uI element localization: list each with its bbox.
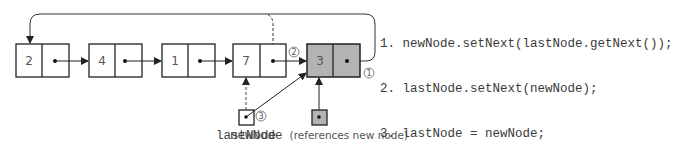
svg-text:1: 1: [366, 69, 371, 78]
lastnode-new-pointer: [246, 73, 306, 117]
pointer-dot: [345, 59, 349, 63]
code-line-3: 3. lastNode = newNode;: [380, 127, 673, 142]
node-value: 4: [98, 54, 106, 68]
step-marker-1: 1: [364, 68, 374, 78]
code-listing: 1. newNode.setNext(lastNode.getNext()); …: [380, 7, 673, 157]
node-value: 2: [25, 54, 33, 68]
list-node-new: 3: [307, 44, 360, 77]
svg-text:3: 3: [258, 112, 263, 121]
code-line-2: 2. lastNode.setNext(newNode);: [380, 82, 673, 97]
code-line-1: 1. newNode.setNext(lastNode.getNext());: [380, 37, 673, 52]
step-marker-3: 3: [256, 111, 266, 121]
newnode-label: newNode: [230, 129, 283, 143]
node-value: 7: [242, 54, 250, 68]
node-value: 3: [316, 54, 324, 68]
step-marker-2: 2: [289, 47, 299, 57]
node-value: 1: [171, 54, 179, 68]
newnode-reference: [312, 110, 327, 125]
svg-text:2: 2: [291, 48, 296, 57]
